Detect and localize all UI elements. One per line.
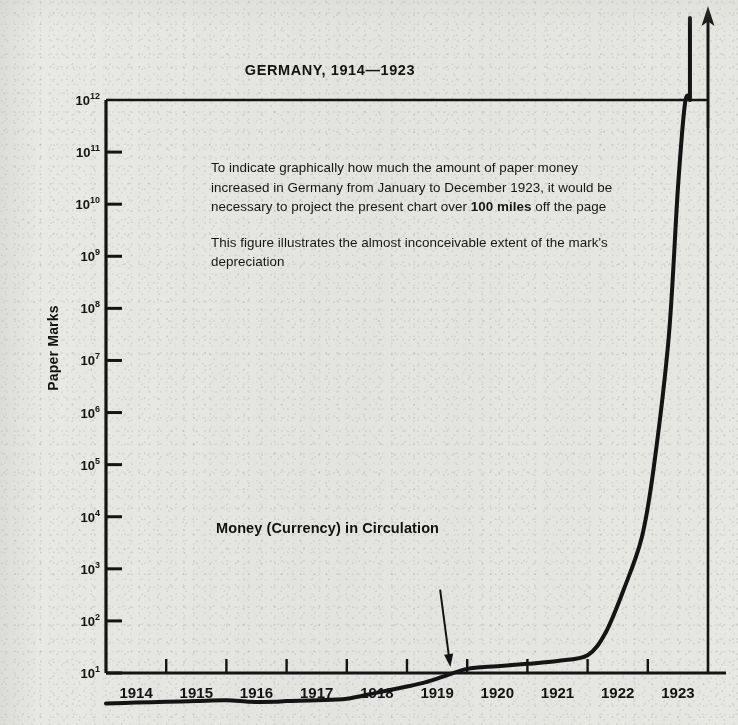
off-chart-arrow [702,6,715,673]
hyperinflation-chart: GERMANY, 1914—1923 Paper Marks 101210111… [0,0,738,725]
series-callout-arrow [440,590,453,668]
y-axis-ticks [106,152,122,673]
axis-lines [106,100,726,673]
series-line-money-in-circulation [106,18,690,703]
plot-area [0,0,738,725]
x-axis-ticks [166,659,648,673]
